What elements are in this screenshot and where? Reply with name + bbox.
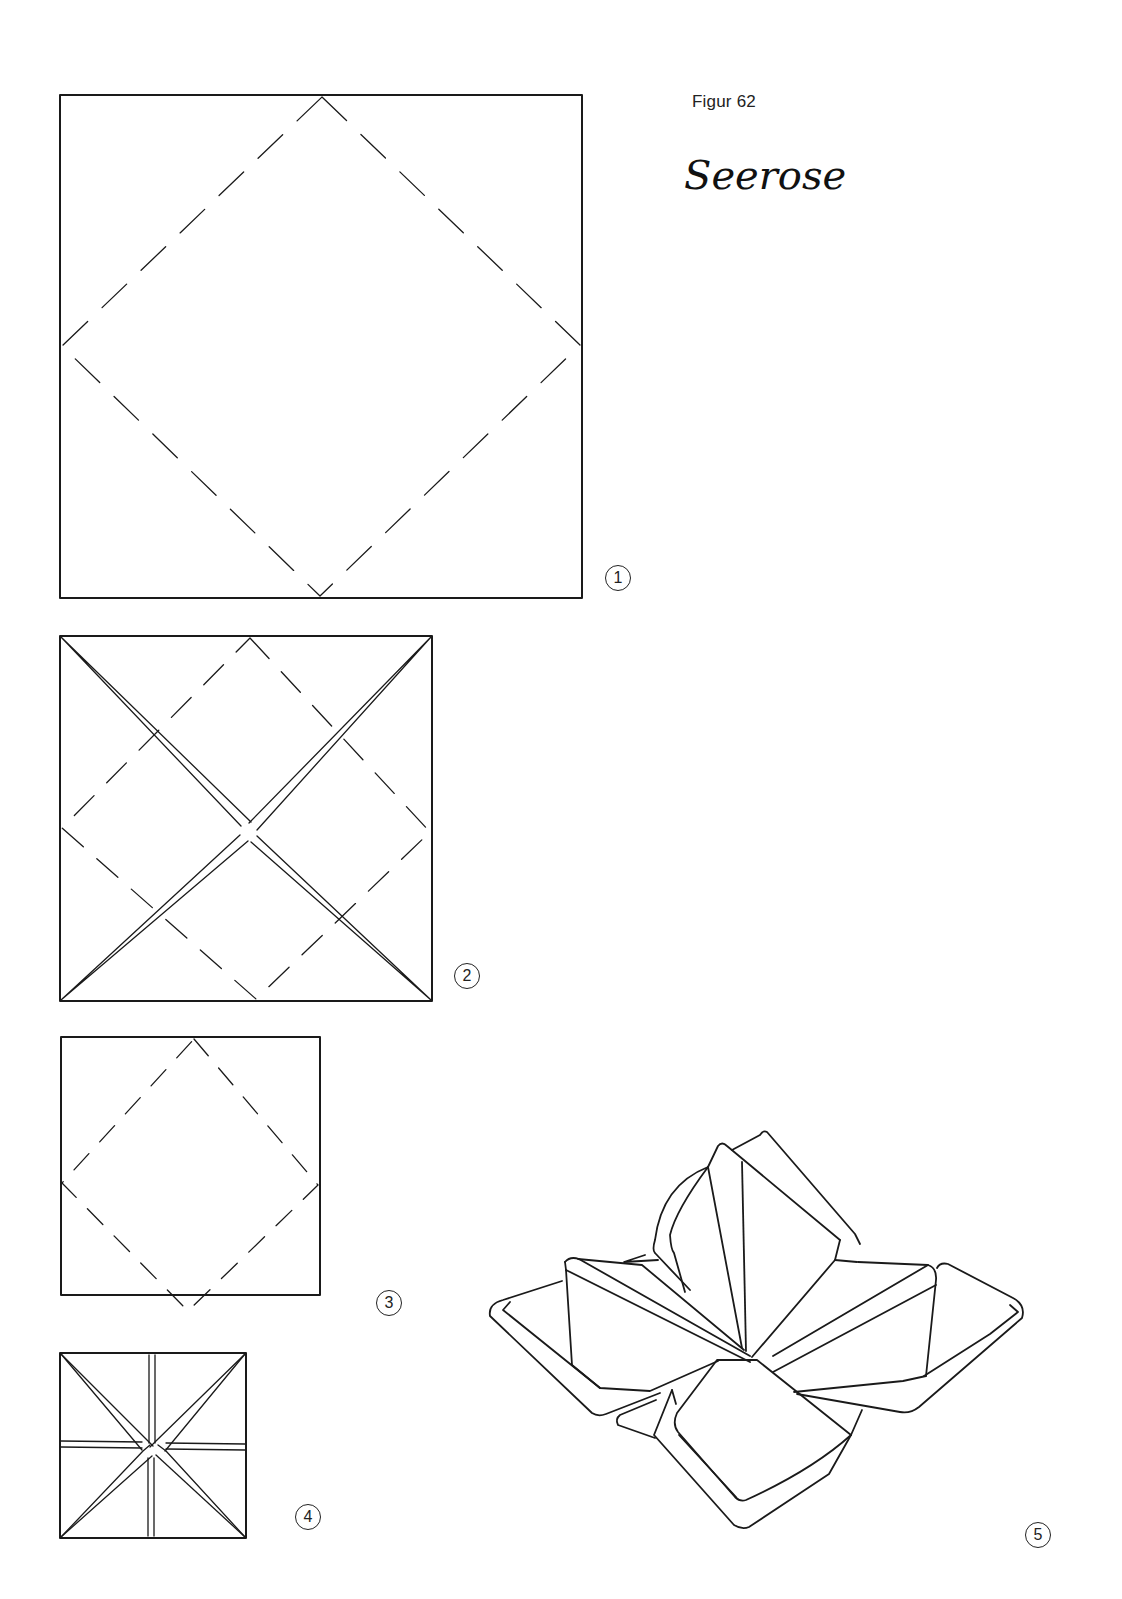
step-3-marker: 3 xyxy=(376,1290,402,1316)
step-5-number: 5 xyxy=(1034,1527,1043,1543)
fold-diagrams xyxy=(0,0,1122,1599)
step-2-marker: 2 xyxy=(454,963,480,989)
step-1-diagram xyxy=(60,95,582,598)
step-1-marker: 1 xyxy=(605,565,631,591)
step-5-water-lily xyxy=(490,1131,1023,1528)
step-4-marker: 4 xyxy=(295,1504,321,1530)
step-4-diagram xyxy=(60,1353,246,1538)
step-2-diagram xyxy=(60,636,432,1001)
step-2-number: 2 xyxy=(463,968,472,984)
step-4-number: 4 xyxy=(304,1509,313,1525)
step-3-diagram xyxy=(61,1037,320,1311)
step-1-number: 1 xyxy=(614,570,623,586)
step-5-marker: 5 xyxy=(1025,1522,1051,1548)
step-3-number: 3 xyxy=(385,1295,394,1311)
